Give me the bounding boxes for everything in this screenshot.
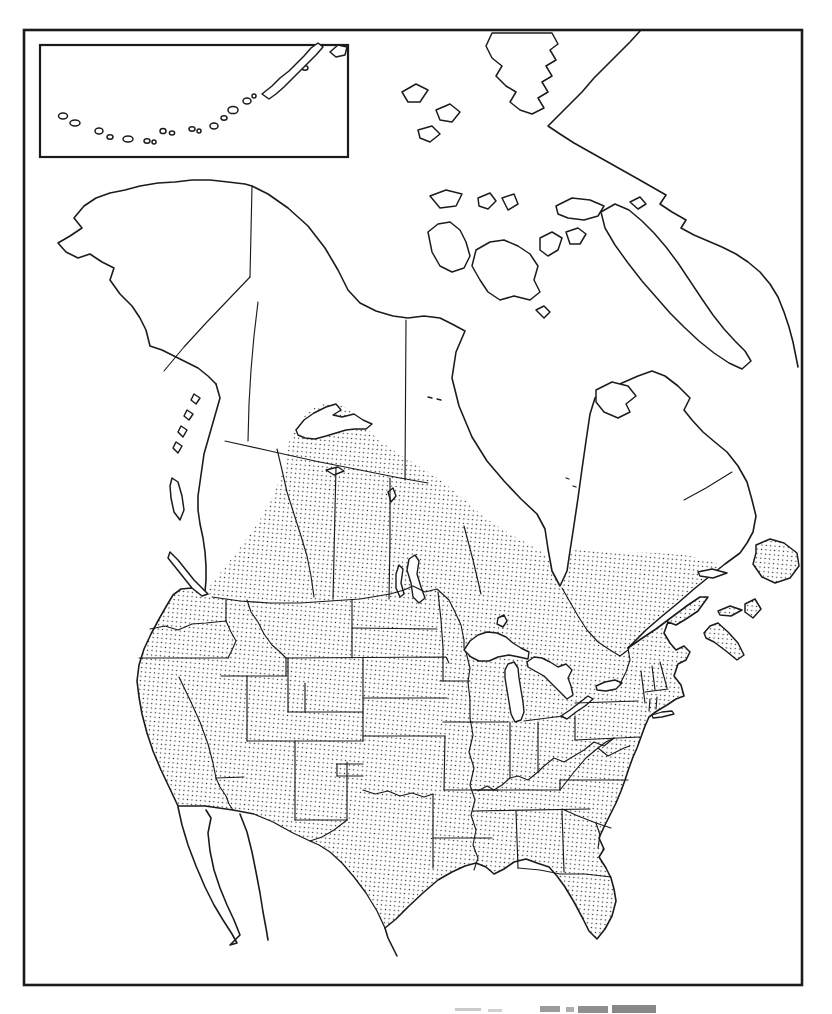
- range-map-figure: [0, 0, 832, 1014]
- scanned-map-page: [0, 0, 832, 1014]
